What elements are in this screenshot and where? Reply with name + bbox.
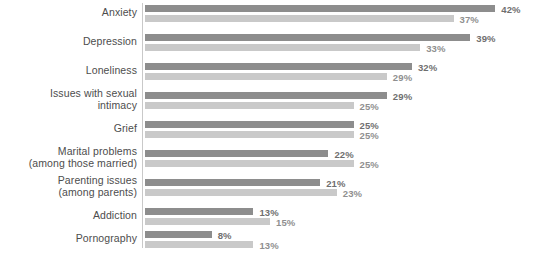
category-label-line: Grief [7, 122, 137, 134]
bar-value-label: 25% [360, 129, 379, 140]
bar-series2: 25% [145, 131, 354, 138]
bar-row: Issues with sexualintimacy29%25% [0, 92, 535, 118]
category-label: Marital problems(among those married) [7, 145, 137, 169]
bar-row: Loneliness32%29% [0, 63, 535, 89]
bar-series1: 21% [145, 179, 320, 186]
bar-series1: 29% [145, 92, 387, 99]
bar-series1: 39% [145, 34, 470, 41]
horizontal-bar-chart: Anxiety42%37%Depression39%33%Loneliness3… [0, 0, 535, 259]
plot-area: Anxiety42%37%Depression39%33%Loneliness3… [0, 0, 535, 259]
category-label-line: Anxiety [7, 6, 137, 18]
bar-pair: 32%29% [145, 63, 412, 80]
bar-value-label: 29% [393, 71, 412, 82]
bar-series1: 22% [145, 150, 328, 157]
category-label-line: intimacy [7, 99, 137, 111]
category-label-line: (among parents) [7, 186, 137, 198]
bar-value-label: 8% [218, 229, 232, 240]
bar-pair: 29%25% [145, 92, 387, 109]
category-label-line: Loneliness [7, 64, 137, 76]
category-label: Issues with sexualintimacy [7, 87, 137, 111]
category-label: Addiction [7, 209, 137, 221]
bar-value-label: 13% [259, 239, 278, 250]
bar-series1: 42% [145, 5, 495, 12]
bar-pair: 8%13% [145, 231, 253, 248]
bar-series1: 13% [145, 208, 253, 215]
bar-value-label: 39% [476, 32, 495, 43]
bar-row: Pornography8%13% [0, 231, 535, 257]
category-label-line: Marital problems [7, 145, 137, 157]
category-label: Anxiety [7, 6, 137, 18]
bar-value-label: 37% [460, 13, 479, 24]
bar-row: Parenting issues(among parents)21%23% [0, 179, 535, 205]
bar-row: Marital problems(among those married)22%… [0, 150, 535, 176]
bar-value-label: 22% [334, 148, 353, 159]
category-label-line: (among those married) [7, 157, 137, 169]
category-label: Loneliness [7, 64, 137, 76]
category-label-line: Pornography [7, 232, 137, 244]
bar-pair: 42%37% [145, 5, 495, 22]
bar-series2: 37% [145, 15, 454, 22]
category-label: Depression [7, 35, 137, 47]
bar-series2: 13% [145, 241, 253, 248]
bar-row: Anxiety42%37% [0, 5, 535, 31]
bar-value-label: 15% [276, 216, 295, 227]
bar-value-label: 29% [393, 90, 412, 101]
bar-series2: 25% [145, 102, 354, 109]
bar-series2: 33% [145, 44, 420, 51]
bar-pair: 21%23% [145, 179, 337, 196]
bar-value-label: 25% [360, 100, 379, 111]
bar-value-label: 23% [343, 187, 362, 198]
bar-series2: 23% [145, 189, 337, 196]
bar-value-label: 42% [501, 3, 520, 14]
category-label-line: Issues with sexual [7, 87, 137, 99]
category-label: Grief [7, 122, 137, 134]
category-label-line: Depression [7, 35, 137, 47]
bar-series2: 29% [145, 73, 387, 80]
bar-value-label: 25% [360, 158, 379, 169]
bar-series1: 8% [145, 231, 212, 238]
bar-pair: 39%33% [145, 34, 470, 51]
bar-value-label: 32% [418, 61, 437, 72]
bar-value-label: 33% [426, 42, 445, 53]
category-label: Parenting issues(among parents) [7, 174, 137, 198]
category-label-line: Parenting issues [7, 174, 137, 186]
category-label-line: Addiction [7, 209, 137, 221]
bar-series1: 32% [145, 63, 412, 70]
bar-pair: 22%25% [145, 150, 354, 167]
bar-series2: 25% [145, 160, 354, 167]
bar-row: Depression39%33% [0, 34, 535, 60]
bar-pair: 13%15% [145, 208, 270, 225]
bar-series2: 15% [145, 218, 270, 225]
bar-row: Grief25%25% [0, 121, 535, 147]
bar-pair: 25%25% [145, 121, 354, 138]
category-label: Pornography [7, 232, 137, 244]
bar-series1: 25% [145, 121, 354, 128]
